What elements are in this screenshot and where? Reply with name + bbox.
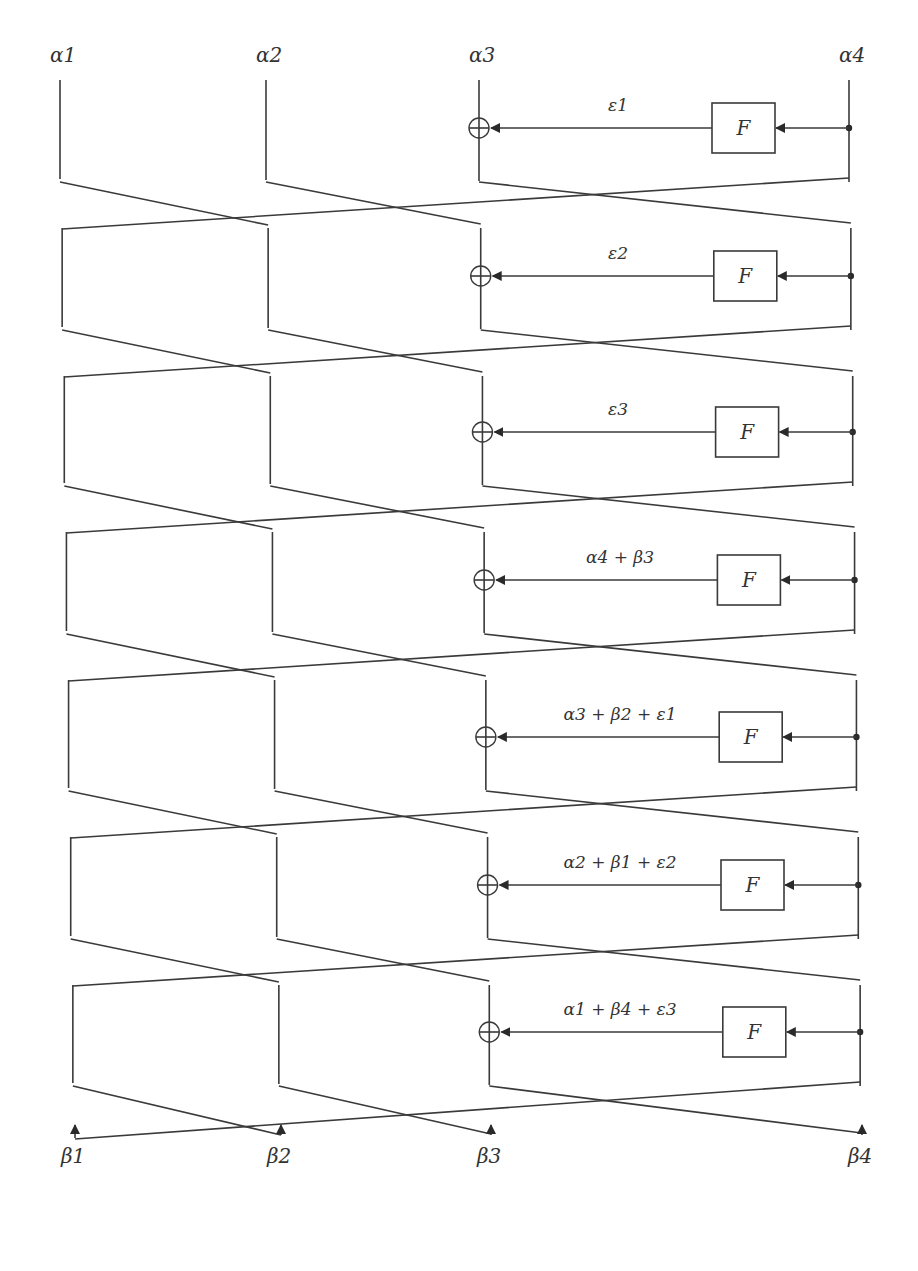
wire-cross-back (66, 482, 852, 533)
input-label-2: α2 (256, 43, 282, 67)
wire-cross (279, 1086, 491, 1134)
wire-cross-back (69, 630, 855, 681)
wire-cross (66, 634, 274, 677)
round-2: Fε2 (471, 243, 854, 301)
wire-cross-back (64, 326, 851, 377)
round-key-label: ε3 (608, 399, 628, 419)
wire-cross-back (75, 1082, 860, 1139)
f-label: F (743, 725, 759, 749)
wire-cross (64, 486, 272, 529)
f-label: F (741, 568, 757, 592)
round-3: Fε3 (472, 399, 855, 457)
round-key-label: ε2 (608, 243, 628, 263)
f-label: F (737, 264, 753, 288)
wire-cross (272, 634, 485, 676)
wire-cross (489, 1086, 862, 1133)
feistel-diagram: Fε1Fε2Fε3Fα4 + β3Fα3 + β2 + ε1Fα2 + β1 +… (0, 0, 918, 1271)
f-label: F (746, 1020, 762, 1044)
output-label-3: β3 (476, 1144, 501, 1168)
wire-cross (268, 330, 482, 372)
wire-cross (275, 791, 488, 833)
round-1: Fε1 (469, 95, 852, 153)
input-label-3: α3 (469, 43, 495, 67)
output-label-2: β2 (266, 1144, 291, 1168)
f-label: F (745, 873, 761, 897)
round-key-label: ε1 (608, 95, 628, 115)
wire-cross-back (73, 935, 858, 986)
f-label: F (739, 420, 755, 444)
round-7: Fα1 + β4 + ε3 (479, 999, 863, 1057)
output-label-1: β1 (60, 1144, 85, 1168)
round-key-label: α4 + β3 (586, 547, 654, 567)
output-label-4: β4 (847, 1144, 872, 1168)
round-key-label: α3 + β2 + ε1 (564, 704, 677, 724)
wire-cross (488, 939, 861, 980)
wire-cross (270, 486, 484, 528)
round-4: Fα4 + β3 (474, 547, 858, 605)
round-key-label: α2 + β1 + ε2 (564, 852, 677, 872)
wire-cross (486, 791, 858, 832)
wire-cross-back (62, 178, 849, 229)
wire-cross (71, 939, 279, 982)
wire-cross (481, 330, 853, 371)
f-label: F (736, 116, 752, 140)
wire-cross (69, 791, 277, 834)
wire-cross (60, 182, 268, 225)
wire-cross (277, 939, 490, 981)
wire-cross (484, 634, 856, 675)
round-key-label: α1 + β4 + ε3 (564, 999, 677, 1019)
input-label-4: α4 (839, 43, 865, 67)
round-6: Fα2 + β1 + ε2 (478, 852, 862, 910)
round-5: Fα3 + β2 + ε1 (476, 704, 860, 762)
wire-cross (479, 182, 851, 223)
wire-cross (482, 486, 854, 527)
input-label-1: α1 (50, 43, 76, 67)
wire-cross (62, 330, 270, 373)
wire-cross-back (71, 787, 857, 838)
wire-cross (73, 1086, 281, 1135)
wire-cross (266, 182, 481, 224)
